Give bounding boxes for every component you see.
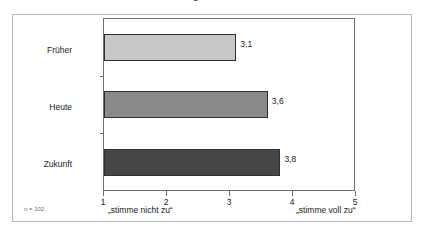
x-axis-tick-label-2: 3 <box>227 197 232 207</box>
bar-value-label-heute: 3,6 <box>272 96 284 106</box>
bar-zukunft <box>104 149 280 176</box>
sample-size-note: n = 102 <box>24 206 44 212</box>
x-axis-tick-2 <box>229 191 230 196</box>
bar-value-label-zukunft: 3,8 <box>284 154 296 164</box>
y-axis-label-2: Zukunft <box>44 159 72 169</box>
x-axis: 12345 <box>103 190 355 191</box>
bar-heute <box>104 91 268 118</box>
x-axis-tick-1 <box>166 191 167 196</box>
title-fragment-text: Einschätzung <box>140 0 199 1</box>
y-axis-label-0: Früher <box>47 45 72 55</box>
scale-anchor-low: „stimme nicht zu“ <box>108 205 173 215</box>
bar-row-heute: 3,6 <box>104 76 354 133</box>
x-axis-tick-3 <box>292 191 293 196</box>
chart-screenshot: Einschätzung Früher Heute Zukunft 3,1 3,… <box>0 0 430 232</box>
scale-anchor-high: „stimme voll zu“ <box>296 205 356 215</box>
bar-row-zukunft: 3,8 <box>104 134 354 191</box>
bar-value-label-frueher: 3,1 <box>240 39 252 49</box>
x-axis-tick-label-0: 1 <box>101 197 106 207</box>
x-axis-tick-0 <box>103 191 104 196</box>
x-axis-tick-4 <box>355 191 356 196</box>
title-fragment: Einschätzung <box>0 0 430 8</box>
plot-area: 3,1 3,6 3,8 <box>103 18 355 190</box>
bar-row-frueher: 3,1 <box>104 19 354 76</box>
y-axis-label-1: Heute <box>49 102 72 112</box>
x-axis-tick-label-3: 4 <box>290 197 295 207</box>
bar-frueher <box>104 34 236 61</box>
